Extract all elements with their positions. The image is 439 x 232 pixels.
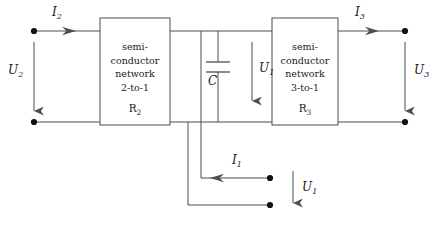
right-block-resistor-label: R3 (272, 102, 338, 117)
u1-outer-subscript: 1 (312, 187, 317, 196)
left-block-line-4: 2-to-1 (100, 81, 170, 95)
left-block-line-1: semi- (100, 40, 170, 54)
terminal-dot-port1-top (267, 175, 273, 181)
voltage-label-u3: U3 (414, 63, 429, 79)
u2-subscript: 2 (18, 70, 23, 79)
left-block-line-2: conductor (100, 54, 170, 68)
u3-letter: U (414, 63, 424, 77)
circuit-diagram: semi- conductor network 2-to-1 R2 semi- … (0, 0, 439, 232)
i1-subscript: 1 (237, 160, 242, 169)
left-block-resistor-sub: 2 (137, 108, 142, 117)
current-label-i3: I3 (355, 5, 365, 21)
circuit-svg (0, 0, 439, 232)
right-block-line-3: network (272, 67, 338, 81)
left-block-line-3: network (100, 67, 170, 81)
right-block-resistor-letter: R (299, 102, 307, 114)
right-block-line-1: semi- (272, 40, 338, 54)
right-block-resistor-sub: 3 (307, 108, 312, 117)
u2-letter: U (8, 63, 18, 77)
current-label-i1: I1 (232, 153, 242, 169)
terminal-dot-port3-bottom (402, 119, 408, 125)
u1-outer-letter: U (302, 180, 312, 194)
u1-inner-letter: U (259, 61, 269, 75)
left-block-resistor-letter: R (129, 102, 137, 114)
capacitor-label-c: C (208, 74, 217, 88)
terminal-dot-port3-top (402, 28, 408, 34)
left-block-resistor-label: R2 (100, 102, 170, 117)
i2-subscript: 2 (57, 12, 62, 21)
voltage-label-u1-outer: U1 (302, 180, 317, 196)
terminal-dot-port2-bottom (31, 119, 37, 125)
right-block-line-4: 3-to-1 (272, 81, 338, 95)
right-block-line-2: conductor (272, 54, 338, 68)
terminal-dot-port1-bottom (267, 202, 273, 208)
i3-subscript: 3 (360, 12, 365, 21)
voltage-label-u2: U2 (8, 63, 23, 79)
terminal-dot-port2-top (31, 28, 37, 34)
u3-subscript: 3 (424, 70, 429, 79)
current-label-i2: I2 (52, 5, 62, 21)
voltage-label-u1-inner: U1 (259, 61, 274, 77)
u1-inner-subscript: 1 (269, 68, 274, 77)
